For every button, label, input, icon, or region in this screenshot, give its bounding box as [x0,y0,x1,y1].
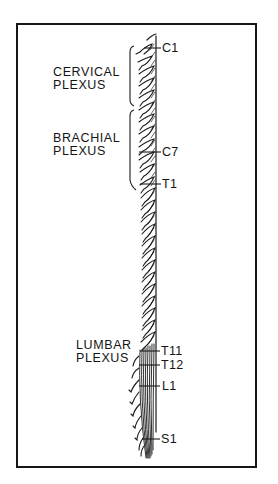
segment-label-c1: C1 [162,42,179,55]
segment-label-c7: C7 [162,146,179,159]
plexus-brackets [130,46,136,190]
lumbar-plexus-line2: PLEXUS [76,352,132,365]
cervical-plexus-line2: PLEXUS [53,79,120,92]
segment-label-s1: S1 [161,433,177,446]
segment-label-l1: L1 [162,380,177,393]
brachial-nerve-roots [139,126,154,193]
segment-leader-lines [139,48,161,439]
segment-label-t1: T1 [162,178,177,191]
lumbar-plexus-label: LUMBAR PLEXUS [76,339,132,365]
spinal-cord-illustration [0,0,278,484]
segment-label-t11: T11 [161,345,183,358]
brachial-plexus-line2: PLEXUS [53,145,120,158]
brachial-bracket [130,110,136,190]
cervical-plexus-label: CERVICAL PLEXUS [53,66,120,92]
segment-label-t12: T12 [161,359,183,372]
cervical-bracket [130,46,134,106]
brachial-plexus-label: BRACHIAL PLEXUS [53,132,120,158]
spinal-cord [129,34,156,458]
